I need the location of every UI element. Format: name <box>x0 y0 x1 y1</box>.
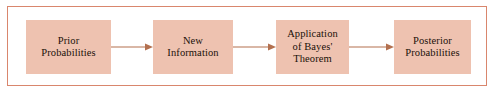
flow-box-new-information: New Information <box>153 20 233 74</box>
flow-box-new-information-label: New Information <box>153 35 233 60</box>
flow-box-posterior: Posterior Probabilities <box>394 20 471 74</box>
arrow-bayes-to-posterior <box>349 41 394 53</box>
flow-box-application-of-bayes-theorem-label: Application of Bayes' Theorem <box>276 28 349 65</box>
figure-frame: Prior Probabilities New Information Appl… <box>7 6 487 86</box>
flow-box-application-of-bayes-theorem: Application of Bayes' Theorem <box>276 20 349 74</box>
arrow-prior-to-new-info <box>111 41 153 53</box>
arrow-new-info-to-bayes <box>233 41 276 53</box>
flow-box-prior: Prior Probabilities <box>26 20 111 74</box>
flow-box-prior-label: Prior Probabilities <box>26 35 111 60</box>
flow-box-posterior-label: Posterior Probabilities <box>394 35 471 60</box>
flow-diagram: Prior Probabilities New Information Appl… <box>8 7 486 85</box>
